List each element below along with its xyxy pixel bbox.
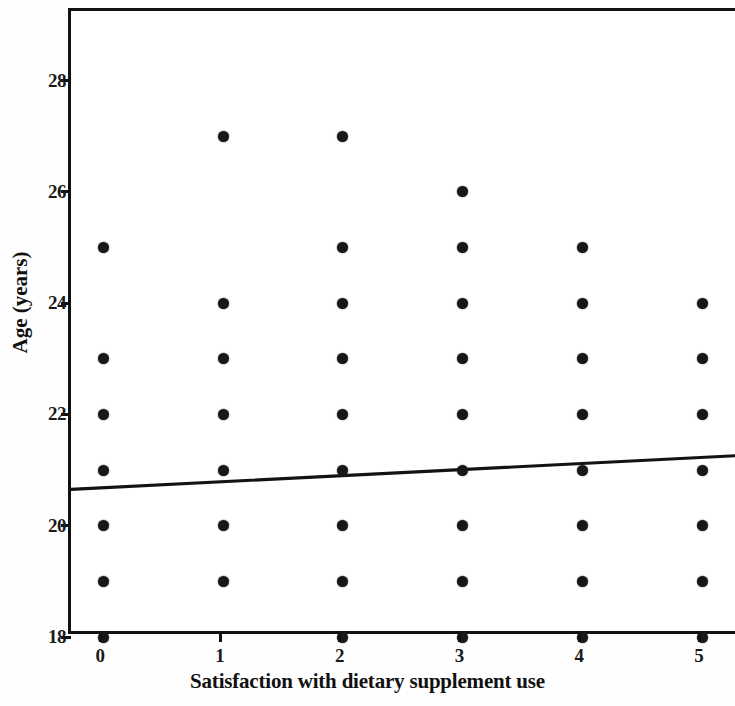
data-point: [337, 353, 348, 364]
x-tick-label: 2: [335, 645, 345, 667]
data-point: [577, 465, 588, 476]
data-point: [577, 298, 588, 309]
x-tick-mark: [219, 631, 222, 642]
scatter-plot-figure: 182022242628 012345 Satisfaction with di…: [0, 0, 735, 706]
data-point: [98, 353, 109, 364]
x-axis-title: Satisfaction with dietary supplement use: [0, 669, 735, 694]
x-tick-mark: [458, 631, 461, 642]
data-point: [218, 353, 229, 364]
y-tick-label: 28: [48, 70, 66, 92]
data-point: [577, 353, 588, 364]
y-tick-label: 26: [48, 181, 66, 203]
data-point: [697, 409, 708, 420]
data-point: [457, 465, 468, 476]
data-point: [337, 465, 348, 476]
data-point: [98, 465, 109, 476]
data-point: [218, 465, 229, 476]
data-point: [337, 242, 348, 253]
data-point: [697, 520, 708, 531]
y-tick-label: 18: [48, 626, 66, 648]
x-tick-label: 3: [455, 645, 465, 667]
data-point: [337, 298, 348, 309]
x-tick-mark: [578, 631, 581, 642]
data-point: [577, 576, 588, 587]
x-tick-mark: [338, 631, 341, 642]
data-point: [337, 576, 348, 587]
data-point: [697, 465, 708, 476]
data-point: [697, 353, 708, 364]
data-point: [337, 409, 348, 420]
data-point: [98, 520, 109, 531]
data-point: [218, 576, 229, 587]
data-point: [457, 242, 468, 253]
x-tick-label: 1: [215, 645, 225, 667]
data-point: [577, 409, 588, 420]
data-point: [697, 298, 708, 309]
data-point: [577, 520, 588, 531]
data-point: [457, 520, 468, 531]
x-tick-label: 0: [96, 645, 106, 667]
data-point: [577, 242, 588, 253]
data-point: [457, 409, 468, 420]
data-point: [697, 576, 708, 587]
data-points-layer: [71, 11, 735, 631]
data-point: [457, 576, 468, 587]
data-point: [337, 520, 348, 531]
data-point: [98, 576, 109, 587]
plot-area: 182022242628: [68, 8, 735, 634]
y-tick-label: 22: [48, 403, 66, 425]
x-tick-label: 5: [694, 645, 704, 667]
y-tick-label: 24: [48, 292, 66, 314]
y-tick-label: 20: [48, 515, 66, 537]
data-point: [457, 353, 468, 364]
data-point: [457, 298, 468, 309]
data-point: [218, 131, 229, 142]
data-point: [218, 298, 229, 309]
y-axis-title: Age (years): [8, 203, 33, 403]
data-point: [218, 520, 229, 531]
data-point: [457, 186, 468, 197]
data-point: [218, 409, 229, 420]
data-point: [98, 242, 109, 253]
data-point: [337, 131, 348, 142]
x-tick-mark: [698, 631, 701, 642]
x-tick-label: 4: [575, 645, 585, 667]
x-tick-mark: [99, 631, 102, 642]
data-point: [98, 409, 109, 420]
